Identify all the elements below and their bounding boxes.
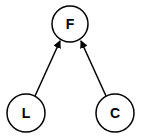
node-l-label: L xyxy=(22,105,31,121)
diagram-canvas: F L C xyxy=(0,0,141,140)
node-f-label: F xyxy=(66,16,75,32)
node-c: C xyxy=(96,94,134,132)
edge-c-to-f xyxy=(81,41,106,96)
node-f: F xyxy=(52,6,88,42)
edge-l-to-f xyxy=(35,41,60,96)
node-l: L xyxy=(7,94,45,132)
node-c-label: C xyxy=(110,105,120,121)
